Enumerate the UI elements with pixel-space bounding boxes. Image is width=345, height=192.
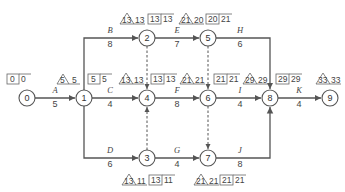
duration-E: 7 xyxy=(174,39,179,49)
svg-text:0: 0 xyxy=(10,74,15,84)
label-H: H xyxy=(236,25,244,35)
node-1: 1 xyxy=(76,90,92,106)
time-node-4-box: 13 13 xyxy=(151,74,177,84)
duration-I: 4 xyxy=(237,99,242,109)
node-4: 4 xyxy=(139,90,155,106)
duration-B: 8 xyxy=(107,39,112,49)
label-J: J xyxy=(238,145,243,155)
node-6: 6 xyxy=(200,90,216,106)
svg-text:21: 21 xyxy=(181,15,191,25)
svg-text:33: 33 xyxy=(318,75,328,85)
duration-G: 4 xyxy=(174,159,179,169)
svg-text:21: 21 xyxy=(195,75,205,85)
svg-text:5: 5 xyxy=(60,75,65,85)
time-node-2-box: 13 13 xyxy=(148,14,174,24)
svg-text:13: 13 xyxy=(134,75,144,85)
svg-text:6: 6 xyxy=(205,93,210,103)
svg-text:11: 11 xyxy=(137,176,146,186)
svg-text:21: 21 xyxy=(221,14,231,24)
label-B: B xyxy=(107,25,112,35)
svg-text:29: 29 xyxy=(245,75,255,85)
svg-text:0: 0 xyxy=(24,93,29,103)
svg-text:21: 21 xyxy=(216,74,226,84)
time-node-0: 0 0 xyxy=(7,74,31,84)
svg-text:29: 29 xyxy=(258,75,268,85)
node-7: 7 xyxy=(200,150,216,166)
time-node-4-triangle: 13 13 xyxy=(119,73,144,85)
svg-text:33: 33 xyxy=(331,75,341,85)
svg-text:5: 5 xyxy=(72,75,77,85)
time-node-1-triangle: 5 5 xyxy=(57,74,80,85)
svg-text:8: 8 xyxy=(267,93,272,103)
svg-text:7: 7 xyxy=(205,153,210,163)
svg-text:29: 29 xyxy=(291,74,301,84)
node-5: 5 xyxy=(200,30,216,46)
time-node-6-triangle: 21 21 xyxy=(180,73,205,85)
node-9: 9 xyxy=(322,90,338,106)
time-node-5-triangle: 21 20 xyxy=(179,13,204,25)
svg-text:13: 13 xyxy=(122,15,132,25)
svg-text:9: 9 xyxy=(327,93,332,103)
duration-D: 6 xyxy=(107,159,112,169)
time-node-3-triangle: 13 11 xyxy=(122,174,147,186)
label-E: E xyxy=(173,25,180,35)
svg-text:13: 13 xyxy=(153,74,163,84)
duration-J: 8 xyxy=(237,159,242,169)
time-node-3-box: 13 11 xyxy=(149,175,175,185)
svg-text:5: 5 xyxy=(91,74,96,84)
svg-text:3: 3 xyxy=(144,153,149,163)
label-A: A xyxy=(51,85,58,95)
svg-text:21: 21 xyxy=(229,74,239,84)
label-F: F xyxy=(173,85,180,95)
svg-text:20: 20 xyxy=(208,14,218,24)
svg-text:5: 5 xyxy=(102,74,107,84)
node-8: 8 xyxy=(262,90,278,106)
svg-text:13: 13 xyxy=(166,74,176,84)
time-node-7-triangle: 21 21 xyxy=(194,174,219,186)
svg-text:21: 21 xyxy=(196,176,206,186)
time-node-6-box: 21 21 xyxy=(214,74,240,84)
label-G: G xyxy=(174,145,180,155)
svg-text:1: 1 xyxy=(81,93,86,103)
svg-text:13: 13 xyxy=(124,176,134,186)
svg-text:21: 21 xyxy=(235,175,245,185)
svg-text:13: 13 xyxy=(150,14,160,24)
svg-text:20: 20 xyxy=(194,15,204,25)
label-C: C xyxy=(107,85,113,95)
edge-J xyxy=(216,107,270,158)
svg-text:4: 4 xyxy=(144,93,149,103)
duration-F: 8 xyxy=(174,99,179,109)
node-3: 3 xyxy=(139,150,155,166)
label-K: K xyxy=(295,85,303,95)
svg-text:13: 13 xyxy=(163,14,173,24)
svg-text:2: 2 xyxy=(144,33,149,43)
node-0: 0 xyxy=(19,90,35,106)
time-node-1-box: 5 5 xyxy=(88,74,112,84)
time-node-7-box: 21 21 xyxy=(220,175,246,185)
duration-A: 5 xyxy=(52,99,57,109)
time-node-8-box: 29 29 xyxy=(276,74,302,84)
network-diagram: A 5 B 8 C 4 D 6 E 7 F 8 G 4 H 6 I 4 J 8 … xyxy=(0,0,345,192)
svg-text:11: 11 xyxy=(164,175,173,185)
svg-text:13: 13 xyxy=(135,15,145,25)
time-node-9-triangle: 33 33 xyxy=(316,73,341,85)
time-node-5-box: 20 21 xyxy=(206,14,232,24)
svg-text:0: 0 xyxy=(21,74,26,84)
duration-C: 4 xyxy=(107,99,112,109)
time-node-2-triangle: 13 13 xyxy=(120,13,145,25)
svg-text:5: 5 xyxy=(205,33,210,43)
svg-text:21: 21 xyxy=(222,175,232,185)
svg-text:29: 29 xyxy=(278,74,288,84)
duration-K: 4 xyxy=(296,99,301,109)
svg-text:21: 21 xyxy=(182,75,192,85)
time-node-8-triangle: 29 29 xyxy=(243,73,268,85)
svg-text:21: 21 xyxy=(209,176,219,186)
label-D: D xyxy=(106,145,114,155)
duration-H: 6 xyxy=(237,39,242,49)
node-2: 2 xyxy=(139,30,155,46)
label-I: I xyxy=(238,85,243,95)
svg-text:13: 13 xyxy=(151,175,161,185)
svg-text:13: 13 xyxy=(121,75,131,85)
